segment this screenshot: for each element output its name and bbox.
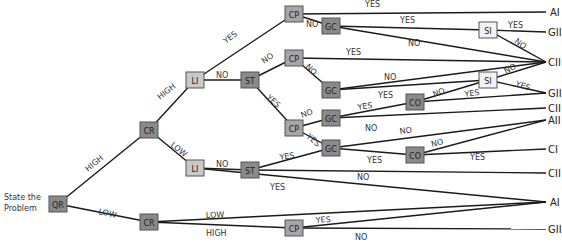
edge-label: NO	[300, 107, 315, 120]
tree-edge	[58, 130, 149, 204]
tree-nodes: QRCRCRLILISTSTCPCPCPCPGCGCGCGCCOCOSISI	[49, 6, 497, 236]
tree-edge	[294, 58, 546, 62]
outcome-label: CI	[548, 144, 558, 155]
node-label: LI	[192, 77, 199, 86]
node-label: ST	[245, 167, 255, 176]
decision-node-cp: CP	[285, 120, 303, 136]
edge-label: YES	[364, 0, 380, 9]
node-label: GC	[325, 145, 337, 154]
node-label: CP	[289, 55, 300, 64]
edge-label: YES	[304, 131, 322, 148]
edge-label: YES	[366, 156, 382, 165]
tree-edge	[331, 80, 488, 90]
edge-label: YES	[278, 151, 295, 162]
node-label: SI	[484, 77, 491, 86]
decision-node-gc: GC	[322, 140, 340, 156]
decision-node-cp: CP	[285, 50, 303, 66]
node-label: GC	[325, 23, 337, 32]
edge-label: HIGH	[206, 229, 227, 238]
edge-label: HIGH	[84, 153, 106, 173]
edge-label: YES	[314, 215, 331, 225]
node-label: CP	[289, 225, 300, 234]
edge-label: LOW	[169, 140, 189, 158]
edge-label: YES	[377, 91, 393, 100]
decision-node-si: SI	[479, 72, 497, 88]
edge-label: NO	[432, 86, 447, 99]
edge-label: NO	[304, 62, 319, 77]
edge-label: HIGH	[156, 82, 178, 102]
outcome-label: CII	[548, 57, 561, 68]
start-label-line-2: Problem	[4, 204, 37, 213]
node-label: ST	[245, 77, 255, 86]
edge-label: NO	[260, 51, 275, 65]
decision-node-st: ST	[241, 72, 259, 88]
node-label: LI	[192, 165, 199, 174]
outcome-label: AI	[550, 7, 560, 18]
node-label: CP	[289, 11, 300, 20]
tree-edge	[331, 148, 415, 155]
node-label: CO	[409, 152, 421, 161]
outcome-label: CII	[548, 168, 561, 179]
edge-label: YES	[507, 21, 523, 30]
edge-label: YES	[513, 79, 531, 93]
outcome-label: AII	[548, 115, 561, 126]
edge-label: NO	[365, 124, 377, 133]
edge-label: LOW	[206, 210, 225, 220]
decision-node-si: SI	[479, 22, 497, 38]
edge-label: NO	[503, 62, 518, 76]
start-label: State the Problem	[4, 193, 43, 213]
outcome-label: GII	[548, 88, 562, 99]
node-label: GC	[325, 87, 337, 96]
decision-node-gc: GC	[322, 110, 340, 126]
outcome-label: AI	[550, 197, 560, 208]
node-label: GC	[325, 115, 337, 124]
tree-edge	[250, 170, 546, 173]
edge-label: NO	[357, 173, 369, 182]
decision-node-cp: CP	[285, 220, 303, 236]
start-label-line-1: State the	[4, 193, 41, 202]
outcome-label: GII	[548, 224, 562, 235]
edge-label: YES	[345, 48, 361, 57]
decision-node-gc: GC	[322, 82, 340, 98]
decision-node-li: LI	[186, 160, 204, 176]
decision-node-li: LI	[186, 72, 204, 88]
decision-node-cp: CP	[285, 6, 303, 22]
edge-label: NO	[355, 233, 367, 242]
outcome-label: GII	[548, 27, 562, 38]
edge-label: NO	[216, 71, 228, 80]
tree-outcomes: AIGIICIIGIICIIAIICICIIAIGII	[548, 7, 562, 235]
edge-label: YES	[221, 29, 239, 46]
edge-label: NO	[513, 36, 528, 51]
tree-edge	[294, 202, 546, 228]
decision-node-st: ST	[241, 162, 259, 178]
outcome-label: CII	[548, 103, 561, 114]
edge-label: YES	[469, 153, 485, 162]
edge-label: LOW	[98, 207, 118, 220]
edge-label: NO	[399, 125, 412, 136]
tree-edge	[195, 14, 294, 80]
edge-label: YES	[269, 183, 285, 192]
decision-node-co: CO	[406, 94, 424, 110]
node-label: CP	[289, 125, 300, 134]
decision-node-qr: QR	[49, 196, 67, 212]
tree-edge	[294, 12, 546, 14]
node-label: QR	[52, 201, 64, 210]
decision-tree-diagram: HIGHLOWHIGHLOWYESNONOYESYESNOYESNOYESNOY…	[0, 0, 562, 242]
edge-label: YES	[399, 16, 415, 25]
edge-label: NO	[306, 20, 318, 29]
tree-edge	[149, 222, 294, 228]
node-label: CR	[143, 219, 155, 228]
decision-node-cr: CR	[140, 214, 158, 230]
edge-label: NO	[408, 39, 420, 48]
edge-label: YES	[264, 92, 282, 109]
edge-label: NO	[216, 160, 228, 169]
node-label: CO	[409, 99, 421, 108]
node-label: CR	[143, 127, 155, 136]
tree-edge	[294, 228, 546, 229]
node-label: SI	[484, 27, 491, 36]
decision-node-gc: GC	[322, 18, 340, 34]
decision-node-co: CO	[406, 147, 424, 163]
decision-node-cr: CR	[140, 122, 158, 138]
edge-label: NO	[384, 73, 396, 82]
